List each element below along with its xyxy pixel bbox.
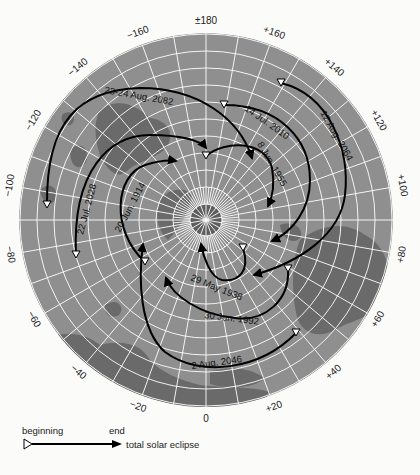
longitude-label: +100	[395, 173, 410, 198]
longitude-label: +120	[369, 108, 390, 133]
legend-description: total solar eclipse	[126, 439, 199, 450]
legend-beginning-label: beginning	[22, 425, 63, 436]
longitude-label: +160	[262, 23, 287, 41]
legend-arrow	[22, 436, 142, 452]
longitude-label: −60	[25, 309, 43, 330]
start-triangle-icon	[24, 439, 32, 449]
longitude-label: −20	[128, 398, 148, 414]
longitude-label: +20	[264, 398, 284, 414]
longitude-label: −80	[4, 245, 18, 264]
longitude-label: +80	[394, 245, 408, 264]
longitude-label: −140	[65, 55, 90, 78]
longitude-label: ±180	[195, 15, 218, 26]
longitude-label: +140	[322, 55, 347, 78]
longitude-label: −100	[2, 173, 17, 198]
longitude-label: 0	[203, 413, 209, 424]
legend: beginning end total solar eclipse	[22, 425, 272, 465]
eclipse-map: ±180+160+140+120+100+80+60+40+200−20−40−…	[0, 0, 420, 475]
longitude-label: +40	[323, 362, 343, 382]
longitude-label: −160	[125, 23, 150, 41]
longitude-label: −40	[69, 362, 89, 382]
longitude-label: +60	[369, 309, 387, 330]
longitude-label: −120	[23, 107, 44, 132]
arrow-head-icon	[112, 440, 122, 448]
legend-end-label: end	[109, 425, 125, 436]
